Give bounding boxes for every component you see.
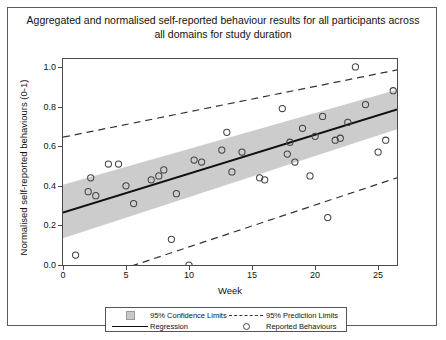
filled-square-swatch-icon bbox=[110, 311, 150, 320]
confidence-band bbox=[63, 90, 397, 239]
legend-row: Regression Reported Behaviours bbox=[110, 321, 342, 331]
legend-label: Reported Behaviours bbox=[266, 322, 336, 331]
x-tick-label: 5 bbox=[114, 270, 138, 280]
data-point bbox=[325, 214, 331, 220]
y-tick-label: 0.0 bbox=[30, 260, 56, 270]
plot-svg bbox=[63, 59, 397, 265]
data-point bbox=[307, 173, 313, 179]
legend-row: 95% Confidence Limits 95% Prediction Lim… bbox=[110, 311, 342, 321]
x-tick-mark bbox=[189, 266, 190, 270]
y-tick-label: 0.6 bbox=[30, 141, 56, 151]
x-axis-title: Week bbox=[62, 285, 398, 296]
data-point bbox=[224, 129, 230, 135]
x-tick-mark bbox=[378, 266, 379, 270]
x-tick-mark bbox=[126, 266, 127, 270]
x-tick-label: 0 bbox=[51, 270, 75, 280]
x-tick-mark bbox=[315, 266, 316, 270]
data-point bbox=[383, 137, 389, 143]
legend-entry-prediction: 95% Prediction Limits bbox=[226, 311, 342, 320]
y-tick-label: 1.0 bbox=[30, 62, 56, 72]
data-point bbox=[279, 105, 285, 111]
x-tick-label: 25 bbox=[366, 270, 390, 280]
legend-label: 95% Confidence Limits bbox=[150, 311, 227, 320]
x-tick-label: 20 bbox=[303, 270, 327, 280]
chart-legend: 95% Confidence Limits 95% Prediction Lim… bbox=[105, 307, 347, 332]
data-point bbox=[168, 236, 174, 242]
legend-label: Regression bbox=[150, 322, 188, 331]
open-circle-swatch-icon bbox=[226, 323, 266, 330]
data-point bbox=[105, 161, 111, 167]
data-point bbox=[352, 64, 358, 70]
y-tick-label: 0.8 bbox=[30, 102, 56, 112]
legend-entry-reported: Reported Behaviours bbox=[226, 322, 342, 331]
figure-container: Aggregated and normalised self-reported … bbox=[0, 0, 446, 340]
chart-title: Aggregated and normalised self-reported … bbox=[24, 13, 422, 41]
y-tick-label: 0.2 bbox=[30, 220, 56, 230]
data-point bbox=[375, 149, 381, 155]
dashed-line-swatch-icon bbox=[226, 315, 266, 316]
plot-area bbox=[62, 58, 398, 266]
legend-entry-regression: Regression bbox=[110, 322, 226, 331]
x-tick-mark bbox=[63, 266, 64, 270]
y-tick-label: 0.4 bbox=[30, 181, 56, 191]
legend-entry-confidence: 95% Confidence Limits bbox=[110, 311, 226, 320]
x-tick-mark bbox=[252, 266, 253, 270]
solid-line-swatch-icon bbox=[110, 326, 150, 327]
x-tick-label: 15 bbox=[240, 270, 264, 280]
x-tick-label: 10 bbox=[177, 270, 201, 280]
data-point bbox=[115, 161, 121, 167]
legend-label: 95% Prediction Limits bbox=[266, 311, 338, 320]
data-point bbox=[73, 252, 79, 258]
data-point bbox=[186, 262, 192, 265]
y-axis-title: Normalised self-reported behaviours (0-1… bbox=[18, 68, 29, 268]
